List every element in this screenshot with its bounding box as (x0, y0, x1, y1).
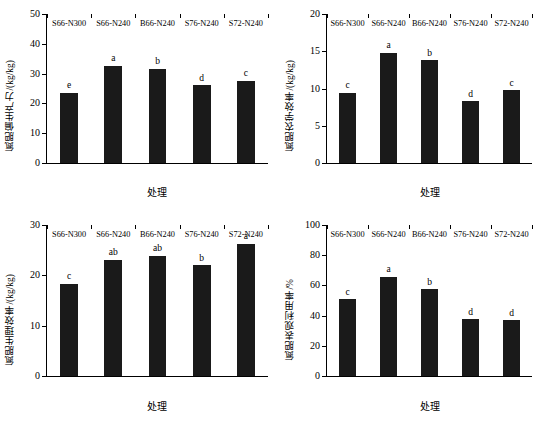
x-axis-tick-label: S72-N240 (229, 231, 263, 239)
chart-panel-nitrogen-physiological-efficiency: 氮肥生理效率/(kg/kg) 0102030cS66-N300abS66-N24… (0, 211, 280, 427)
x-axis-tick (327, 225, 328, 229)
bar (380, 53, 396, 163)
x-axis-tick (491, 14, 492, 18)
y-axis-tick (42, 103, 47, 104)
x-axis-tick (224, 14, 225, 18)
x-axis-tick-label: S72-N240 (229, 20, 263, 28)
plot-area: 05101520cS66-N300aS66-N240bB66-N240dS76-… (326, 14, 532, 164)
bar (421, 289, 437, 376)
significance-letter: b (427, 278, 432, 288)
significance-letter: e (67, 81, 71, 91)
x-axis-tick (91, 14, 92, 18)
bar (237, 244, 255, 376)
bar (149, 256, 167, 376)
significance-letter: c (345, 288, 349, 298)
y-axis-title: 氮肥表观利用率/% (282, 211, 300, 427)
y-axis-title: 氮肥生理效率/(kg/kg) (2, 211, 20, 427)
x-axis-tick-label: S66-N240 (371, 20, 405, 28)
y-axis-tick (322, 285, 327, 286)
bar (60, 93, 78, 163)
plot-inner: 05101520cS66-N300aS66-N240bB66-N240dS76-… (327, 14, 532, 163)
significance-letter: ab (109, 248, 118, 258)
y-axis-tick (322, 255, 327, 256)
bar (462, 101, 478, 163)
significance-letter: c (67, 272, 71, 282)
x-axis-tick (180, 14, 181, 18)
y-axis-tick-label: 60 (310, 280, 320, 290)
x-axis-tick-label: S66-N240 (371, 231, 405, 239)
plot-area: 020406080100cS66-N300aS66-N240bB66-N240d… (326, 225, 532, 377)
x-axis-tick-label: B66-N240 (412, 231, 447, 239)
y-axis-tick (42, 326, 47, 327)
y-axis-tick-label: 0 (315, 158, 320, 168)
x-axis-title: 处理 (46, 402, 268, 412)
y-axis-tick-label: 15 (310, 46, 320, 56)
x-axis-tick-label: S66-N300 (52, 231, 86, 239)
y-axis-tick-label: 20 (310, 9, 320, 19)
bar (193, 265, 211, 376)
chart-panel-nitrogen-partial-factor-productivity: 氮肥偏生产力/(kg/kg) 01020304050eS66-N300aS66-… (0, 0, 280, 211)
plot-inner: 01020304050eS66-N300aS66-N240bB66-N240dS… (47, 14, 268, 163)
x-axis-tick (368, 14, 369, 18)
y-axis-tick (42, 376, 47, 377)
y-axis-tick-label: 0 (315, 371, 320, 381)
x-axis-title: 处理 (46, 188, 268, 198)
plot-inner: 0102030cS66-N300abS66-N240abB66-N240bS76… (47, 225, 268, 376)
x-axis-tick (491, 225, 492, 229)
y-axis-tick-label: 40 (30, 39, 40, 49)
y-axis-tick-label: 10 (310, 84, 320, 94)
x-axis-tick-label: S66-N240 (96, 231, 130, 239)
chart-panel-nitrogen-apparent-recovery-efficiency: 氮肥表观利用率/% 020406080100cS66-N300aS66-N240… (280, 211, 546, 427)
y-axis-tick (42, 133, 47, 134)
x-axis-tick-label: B66-N240 (412, 20, 447, 28)
figure-container: 氮肥偏生产力/(kg/kg) 01020304050eS66-N300aS66-… (0, 0, 546, 427)
significance-letter: b (427, 49, 432, 59)
bar (149, 69, 167, 163)
y-axis-tick (322, 376, 327, 377)
y-axis-tick (322, 346, 327, 347)
plot-inner: 020406080100cS66-N300aS66-N240bB66-N240d… (327, 225, 532, 376)
x-axis-tick (47, 225, 48, 229)
x-axis-tick-label: S66-N300 (52, 20, 86, 28)
significance-letter: b (199, 254, 204, 264)
x-axis-tick (409, 225, 410, 229)
y-axis-tick-label: 30 (30, 69, 40, 79)
bar (339, 299, 355, 376)
x-axis-tick (224, 225, 225, 229)
y-axis-tick (322, 51, 327, 52)
bar (193, 85, 211, 163)
x-axis-tick-label: S76-N240 (185, 231, 219, 239)
y-axis-tick-label: 100 (305, 220, 320, 230)
bar (104, 260, 122, 376)
x-axis-tick (135, 14, 136, 18)
x-axis-title: 处理 (326, 188, 534, 198)
x-axis-tick (450, 225, 451, 229)
x-axis-tick (532, 14, 533, 18)
y-axis-tick-label: 10 (30, 128, 40, 138)
x-axis-tick (368, 225, 369, 229)
y-axis-tick (322, 126, 327, 127)
bar (104, 66, 122, 163)
y-axis-tick (42, 163, 47, 164)
y-axis-tick (42, 44, 47, 45)
x-axis-tick-label: S72-N240 (494, 20, 528, 28)
y-axis-tick-label: 50 (30, 9, 40, 19)
x-axis-tick-label: S72-N240 (494, 231, 528, 239)
bar (60, 284, 78, 376)
x-axis-tick-label: S66-N300 (330, 231, 364, 239)
significance-letter: c (509, 79, 513, 89)
bar (380, 277, 396, 376)
y-axis-tick-label: 20 (30, 98, 40, 108)
bar (462, 319, 478, 376)
bar (421, 60, 437, 163)
significance-letter: a (386, 41, 390, 51)
x-axis-tick-label: S76-N240 (453, 231, 487, 239)
significance-letter: ab (153, 244, 162, 254)
y-axis-title: 氮肥农学效率/(kg/kg) (282, 0, 300, 211)
x-axis-tick (409, 14, 410, 18)
significance-letter: d (468, 308, 473, 318)
y-axis-tick-label: 80 (310, 250, 320, 260)
y-axis-tick-label: 5 (315, 121, 320, 131)
significance-letter: c (244, 69, 248, 79)
x-axis-title: 处理 (326, 402, 534, 412)
